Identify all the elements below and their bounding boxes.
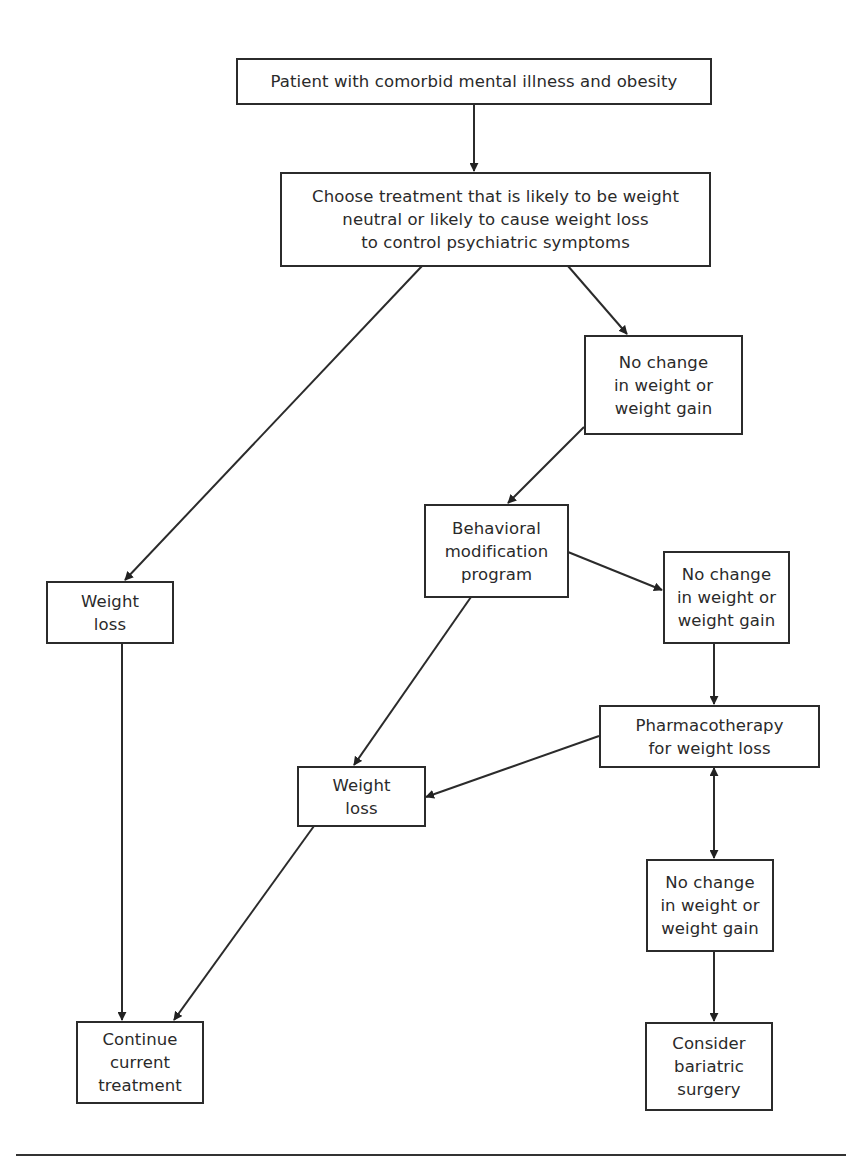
node-text: modification xyxy=(445,540,549,563)
node-text: Choose treatment that is likely to be we… xyxy=(312,185,679,208)
node-text: current xyxy=(110,1051,170,1074)
node-text: No change xyxy=(682,563,771,586)
arrow-weight-loss-2-to-continue xyxy=(174,826,314,1020)
node-text: Patient with comorbid mental illness and… xyxy=(271,70,678,93)
node-text: treatment xyxy=(98,1074,182,1097)
node-text: in weight or xyxy=(660,894,759,917)
arrow-choose-to-weight-loss-1 xyxy=(125,266,422,580)
node-text: program xyxy=(461,563,532,586)
node-text: weight gain xyxy=(615,397,713,420)
node-weight-loss-2: Weight loss xyxy=(297,766,426,827)
node-no-change-2: No change in weight or weight gain xyxy=(663,551,790,644)
arrow-pharmacotherapy-to-weight-loss-2 xyxy=(426,736,599,797)
arrow-no-change-1-to-behavioral xyxy=(508,427,584,503)
node-text: No change xyxy=(619,351,708,374)
node-text: loss xyxy=(94,613,126,636)
node-text: in weight or xyxy=(614,374,713,397)
node-pharmacotherapy: Pharmacotherapy for weight loss xyxy=(599,705,820,768)
node-bariatric-surgery: Consider bariatric surgery xyxy=(645,1022,773,1111)
node-text: surgery xyxy=(677,1078,740,1101)
node-text: Pharmacotherapy xyxy=(635,714,783,737)
node-text: for weight loss xyxy=(648,737,770,760)
node-text: Consider xyxy=(672,1032,745,1055)
node-text: Continue xyxy=(103,1028,178,1051)
node-start: Patient with comorbid mental illness and… xyxy=(236,58,712,105)
arrow-choose-to-no-change-1 xyxy=(568,266,627,334)
node-text: neutral or likely to cause weight loss xyxy=(342,208,648,231)
node-text: in weight or xyxy=(677,586,776,609)
node-no-change-1: No change in weight or weight gain xyxy=(584,335,743,435)
arrow-behavioral-to-no-change-2 xyxy=(568,552,662,590)
node-no-change-3: No change in weight or weight gain xyxy=(646,859,774,952)
bottom-divider xyxy=(16,1154,846,1156)
node-choose-treatment: Choose treatment that is likely to be we… xyxy=(280,172,711,267)
node-weight-loss-1: Weight loss xyxy=(46,581,174,644)
node-text: bariatric xyxy=(674,1055,744,1078)
node-text: No change xyxy=(665,871,754,894)
node-text: Weight xyxy=(332,774,390,797)
node-text: loss xyxy=(345,797,377,820)
node-text: Behavioral xyxy=(452,517,541,540)
node-continue-treatment: Continue current treatment xyxy=(76,1021,204,1104)
node-text: weight gain xyxy=(678,609,776,632)
arrow-behavioral-to-weight-loss-2 xyxy=(354,597,471,765)
node-text: Weight xyxy=(81,590,139,613)
node-text: to control psychiatric symptoms xyxy=(361,231,630,254)
node-behavioral-modification: Behavioral modification program xyxy=(424,504,569,598)
node-text: weight gain xyxy=(661,917,759,940)
